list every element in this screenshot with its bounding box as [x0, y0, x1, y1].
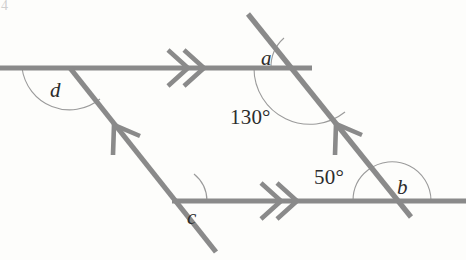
angle-label-d: d — [50, 80, 61, 101]
arc-angle-50 — [353, 170, 368, 201]
arc-angle-c — [194, 174, 207, 201]
geometry-figure — [0, 0, 466, 260]
angle-label-50-degrees: 50° — [314, 167, 344, 188]
angle-arcs — [22, 38, 431, 201]
line-tick-marks — [113, 50, 362, 219]
angle-label-b: b — [397, 177, 408, 198]
angle-label-130-degrees: 130° — [230, 107, 271, 128]
diagram-page: 4 — [0, 0, 466, 260]
angle-label-c: c — [187, 207, 196, 228]
angle-label-a: a — [261, 48, 272, 69]
figure-lines — [0, 14, 466, 252]
